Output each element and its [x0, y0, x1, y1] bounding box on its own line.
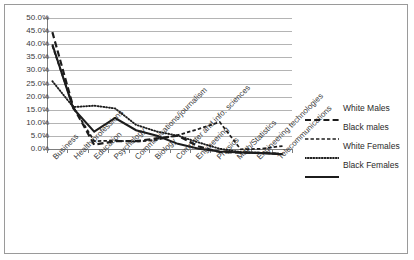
legend-item[interactable]: White Males: [305, 100, 413, 119]
legend-label: Black males: [343, 122, 389, 132]
legend-item[interactable]: White Females: [305, 138, 413, 157]
legend-label: White Males: [343, 103, 390, 113]
legend-item[interactable]: Black males: [305, 119, 413, 138]
legend-swatch: [305, 146, 339, 149]
chart-legend: White MalesBlack malesWhite FemalesBlack…: [305, 100, 413, 176]
chart-frame: 50.0%45.0%40.0%35.0%30.0%25.0%20.0%15.0%…: [4, 4, 408, 254]
legend-item[interactable]: Black Females: [305, 157, 413, 176]
legend-swatch: [305, 127, 339, 130]
legend-swatch: [305, 165, 339, 168]
legend-label: Black Females: [343, 160, 399, 170]
legend-swatch: [305, 108, 339, 111]
series-line: [52, 81, 282, 154]
legend-label: White Females: [343, 141, 400, 151]
series-line: [52, 32, 282, 154]
